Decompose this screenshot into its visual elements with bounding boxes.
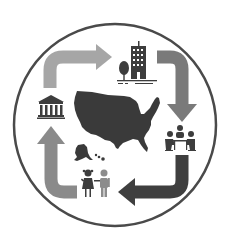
girl-icon xyxy=(81,170,94,198)
arrow-government-to-business xyxy=(50,44,112,88)
cycle-diagram xyxy=(0,0,231,248)
arrow-business-to-meeting xyxy=(157,57,197,122)
hawaii xyxy=(95,154,105,161)
arrow-meeting-to-children xyxy=(118,155,182,206)
alaska xyxy=(74,144,93,161)
people-meeting-table-icon xyxy=(165,125,196,151)
boy-icon xyxy=(94,170,110,198)
office-building-with-tree-icon xyxy=(117,41,157,84)
arrow-children-to-government xyxy=(37,126,77,192)
contiguous-us xyxy=(74,91,160,152)
government-building-icon xyxy=(37,95,65,119)
children-icon xyxy=(81,170,110,198)
usa-map-icon xyxy=(74,91,160,161)
